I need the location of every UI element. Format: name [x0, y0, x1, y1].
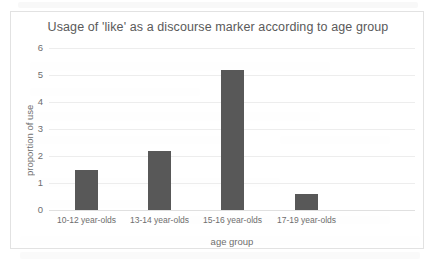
- y-tick-label-0: 0: [38, 205, 43, 215]
- bar-0[interactable]: 10-12 year-olds: [75, 170, 98, 211]
- y-tick-label-1: 1: [38, 178, 43, 188]
- bar-3[interactable]: 17-19 year-olds: [295, 194, 318, 210]
- bars-layer: 10-12 year-olds 13-14 year-olds 15-16 ye…: [49, 48, 415, 210]
- chart-container: Usage of 'like' as a discourse marker ac…: [10, 11, 424, 249]
- x-tick-label-3: 17-19 year-olds: [277, 215, 336, 225]
- bar-1[interactable]: 13-14 year-olds: [148, 151, 171, 210]
- x-tick-label-0: 10-12 year-olds: [57, 215, 116, 225]
- chart-title: Usage of 'like' as a discourse marker ac…: [11, 20, 425, 34]
- y-tick-label-6: 6: [38, 43, 43, 53]
- x-axis-title: age group: [49, 236, 415, 247]
- x-tick-label-2: 15-16 year-olds: [203, 215, 262, 225]
- y-axis-title: proportion of use: [24, 59, 35, 221]
- y-tick-label-5: 5: [38, 70, 43, 80]
- y-tick-label-2: 2: [38, 151, 43, 161]
- bar-2[interactable]: 15-16 year-olds: [221, 70, 244, 210]
- y-tick-label-4: 4: [38, 97, 43, 107]
- y-tick-label-3: 3: [38, 124, 43, 134]
- gridline-0-baseline: 0: [49, 210, 415, 211]
- plot-area: 6 5 4 3 2 1 0 10-12 year-olds 13-14 year…: [49, 48, 415, 210]
- x-tick-label-1: 13-14 year-olds: [130, 215, 189, 225]
